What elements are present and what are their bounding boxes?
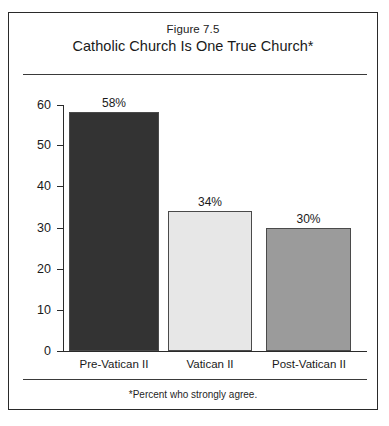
bar-value-pre-vatican-ii: 58% bbox=[69, 97, 159, 109]
bar-pre-vatican-ii bbox=[69, 112, 159, 351]
x-axis-label-vatican-ii: Vatican II bbox=[161, 357, 259, 371]
footnote-divider bbox=[23, 379, 367, 380]
x-axis-label-pre-vatican-ii: Pre-Vatican II bbox=[63, 357, 165, 371]
y-tick-30 bbox=[57, 228, 63, 229]
y-tick-40 bbox=[57, 186, 63, 187]
y-axis-label-40: 40 bbox=[11, 180, 51, 193]
y-axis-label-20: 20 bbox=[11, 263, 51, 276]
y-tick-60 bbox=[57, 105, 63, 106]
y-tick-20 bbox=[57, 269, 63, 270]
y-axis-label-60: 60 bbox=[11, 99, 51, 112]
x-axis-line bbox=[63, 351, 367, 352]
y-axis-line bbox=[63, 105, 64, 352]
y-axis-label-50: 50 bbox=[11, 139, 51, 152]
bar-vatican-ii bbox=[168, 211, 252, 351]
bar-post-vatican-ii bbox=[266, 228, 351, 352]
y-axis-label-10: 10 bbox=[11, 304, 51, 317]
bar-chart-plot-area: 0 10 20 30 40 50 60 58% Pre-Vatican II 3… bbox=[9, 13, 377, 409]
y-tick-50 bbox=[57, 145, 63, 146]
x-axis-label-post-vatican-ii: Post-Vatican II bbox=[257, 357, 361, 371]
y-axis-label-0: 0 bbox=[11, 345, 51, 358]
y-axis-label-30: 30 bbox=[11, 222, 51, 235]
bar-value-vatican-ii: 34% bbox=[168, 196, 252, 208]
y-tick-0 bbox=[57, 351, 63, 352]
figure-footnote: *Percent who strongly agree. bbox=[9, 388, 377, 401]
bar-value-post-vatican-ii: 30% bbox=[266, 213, 351, 225]
y-tick-10 bbox=[57, 310, 63, 311]
figure-frame: Figure 7.5 Catholic Church Is One True C… bbox=[8, 12, 378, 410]
